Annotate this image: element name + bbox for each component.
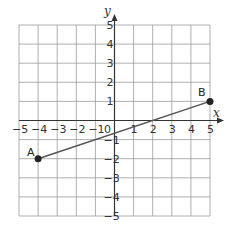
point-b bbox=[207, 98, 214, 105]
y-tick-label: −5 bbox=[104, 210, 120, 223]
y-tick-label: 2 bbox=[107, 76, 114, 89]
point-b-label: B bbox=[198, 86, 206, 99]
x-tick-label: −1 bbox=[88, 123, 104, 136]
x-tick-label: 3 bbox=[169, 123, 176, 136]
y-tick-label: −4 bbox=[104, 191, 120, 204]
y-tick-label: −2 bbox=[104, 153, 120, 166]
y-tick-label: 3 bbox=[107, 57, 114, 70]
x-tick-label: 2 bbox=[150, 123, 157, 136]
x-tick-label: 4 bbox=[188, 123, 195, 136]
y-axis-label: y bbox=[103, 4, 111, 18]
y-tick-label: 5 bbox=[107, 19, 114, 32]
x-tick-label: −3 bbox=[50, 123, 66, 136]
x-tick-label: −4 bbox=[31, 123, 47, 136]
x-tick-label: 5 bbox=[207, 123, 214, 136]
x-tick-label: −2 bbox=[69, 123, 85, 136]
y-tick-label: −3 bbox=[104, 172, 120, 185]
point-a-label: A bbox=[27, 146, 35, 159]
y-tick-label: 4 bbox=[107, 38, 114, 51]
axes: x y bbox=[19, 4, 224, 216]
y-tick-label: 1 bbox=[107, 95, 114, 108]
x-tick-label: 1 bbox=[131, 123, 138, 136]
coordinate-plane: x y −5−4−3−2−112345 54321−1−2−3−4−5 0 A … bbox=[0, 0, 232, 232]
point-a bbox=[35, 155, 42, 162]
x-tick-label: −5 bbox=[12, 123, 28, 136]
x-axis-label: x bbox=[213, 106, 220, 120]
